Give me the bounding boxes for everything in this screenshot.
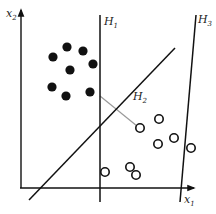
hyperplane-h1-label: H1 xyxy=(103,15,118,30)
y-axis-label: x2 xyxy=(6,7,17,22)
class-open-points xyxy=(101,115,195,179)
filled-data-point xyxy=(48,52,57,61)
x-axis-label: x1 xyxy=(184,193,195,208)
open-data-point xyxy=(187,144,195,152)
filled-data-point xyxy=(78,46,87,55)
hyperplane-h2-line xyxy=(29,48,175,200)
open-data-point xyxy=(154,140,162,148)
hyperplane-h3-line xyxy=(180,15,196,202)
filled-data-point xyxy=(47,82,56,91)
hyperplane-h3-label: H3 xyxy=(197,13,213,28)
hyperplanes-group: H1H2H3 xyxy=(29,13,213,202)
filled-data-point xyxy=(88,59,97,68)
open-data-point xyxy=(132,171,140,179)
svm-hyperplane-diagram: x2 x1 H1H2H3 xyxy=(0,0,216,214)
filled-data-point xyxy=(62,42,71,51)
open-data-point xyxy=(136,124,144,132)
margin-distance-line xyxy=(100,96,137,126)
filled-data-point xyxy=(65,65,74,74)
open-data-point xyxy=(155,115,163,123)
open-data-point xyxy=(126,163,134,171)
filled-data-point xyxy=(61,91,70,100)
open-data-point xyxy=(101,168,109,176)
open-data-point xyxy=(170,134,178,142)
hyperplane-h2-label: H2 xyxy=(132,90,148,105)
class-filled-points xyxy=(47,42,97,100)
filled-data-point xyxy=(85,87,94,96)
